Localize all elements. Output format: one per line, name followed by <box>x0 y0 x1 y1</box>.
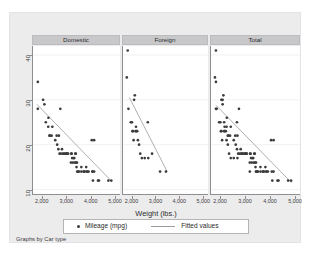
facet-panel-total: Total <box>210 35 300 195</box>
x-tick-label: 3,000 <box>149 199 163 204</box>
facet-header-total: Total <box>210 35 300 45</box>
facet-header-label: Domestic <box>63 37 89 43</box>
line-swatch-icon <box>151 226 175 227</box>
y-tick-label: 10 <box>25 190 31 197</box>
facet-panel-foreign: Foreign <box>122 35 208 195</box>
facet-header-label: Foreign <box>155 37 176 43</box>
footer-note: Graphs by Car type <box>16 237 66 243</box>
stata-graph-figure: 10203040 Weight (lbs.) Mileage (mpg) Fit… <box>9 12 301 243</box>
top-cutoff-text-strip <box>0 0 310 11</box>
screenshot-root: 10203040 Weight (lbs.) Mileage (mpg) Fit… <box>0 0 310 254</box>
legend-item-fitted: Fitted values <box>127 223 218 230</box>
legend-label-mileage: Mileage (mpg) <box>85 223 127 230</box>
x-axis-ticks-total: 2,0003,0004,0005,000 <box>210 196 300 208</box>
facet-header-domestic: Domestic <box>32 35 120 45</box>
panel-plot-total <box>210 46 300 195</box>
y-tick-label: 40 <box>25 55 31 62</box>
x-tick-label: 2,000 <box>35 199 49 204</box>
x-tick-label: 2,000 <box>213 199 227 204</box>
x-tick-label: 3,000 <box>59 199 73 204</box>
x-axis-ticks-foreign: 2,0003,0004,0005,000 <box>122 196 208 208</box>
facet-header-foreign: Foreign <box>122 35 208 45</box>
x-axis-ticks-domestic: 2,0003,0004,0005,000 <box>32 196 120 208</box>
x-tick-label: 4,000 <box>173 199 187 204</box>
legend-label-fitted: Fitted values <box>181 223 218 230</box>
x-tick-label: 3,000 <box>238 199 252 204</box>
x-tick-label: 4,000 <box>263 199 277 204</box>
x-tick-label: 5,000 <box>196 199 210 204</box>
panel-plot-domestic <box>32 46 120 195</box>
chart-legend: Mileage (mpg) Fitted values <box>63 219 249 234</box>
filled-circle-marker-icon <box>77 225 80 228</box>
legend-item-mileage: Mileage (mpg) <box>64 223 127 230</box>
facet-header-label: Total <box>248 37 261 43</box>
facet-panel-domestic: Domestic <box>32 35 120 195</box>
y-axis: 10203040 <box>10 46 32 184</box>
x-tick-label: 5,000 <box>108 199 122 204</box>
x-tick-label: 5,000 <box>288 199 302 204</box>
x-tick-label: 4,000 <box>84 199 98 204</box>
y-tick-label: 30 <box>25 100 31 107</box>
y-tick-label: 20 <box>25 145 31 152</box>
panel-plot-foreign <box>122 46 208 195</box>
plot-area: 10203040 Weight (lbs.) Mileage (mpg) Fit… <box>10 13 302 244</box>
x-axis-title: Weight (lbs.) <box>10 209 302 218</box>
x-tick-label: 2,000 <box>125 199 139 204</box>
